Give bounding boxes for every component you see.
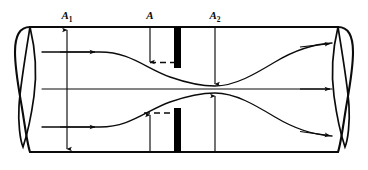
orifice-plate-upper-segment: [174, 27, 181, 68]
dashed-leaders: [144, 63, 175, 114]
streamline-arrow-lower-out: [300, 132, 330, 136]
pipe-right-end-ellipse: [332, 27, 349, 147]
pipe-left-end-ellipse: [19, 27, 36, 147]
dimension-labels: A1 A A2: [60, 9, 220, 24]
label-a2: A2: [208, 9, 220, 24]
streamline-arrow-upper-out: [300, 44, 330, 47]
streamline-lower: [42, 93, 332, 136]
label-a: A: [145, 9, 153, 21]
streamline-arrowheads: [60, 44, 330, 136]
streamline-upper: [42, 43, 332, 86]
orifice-flow-figure: A1 A A2: [0, 0, 368, 170]
orifice-plate-lower-segment: [174, 108, 181, 152]
figure-canvas: A1 A A2: [0, 0, 368, 170]
label-a1: A1: [60, 9, 72, 24]
streamlines: [42, 43, 332, 136]
